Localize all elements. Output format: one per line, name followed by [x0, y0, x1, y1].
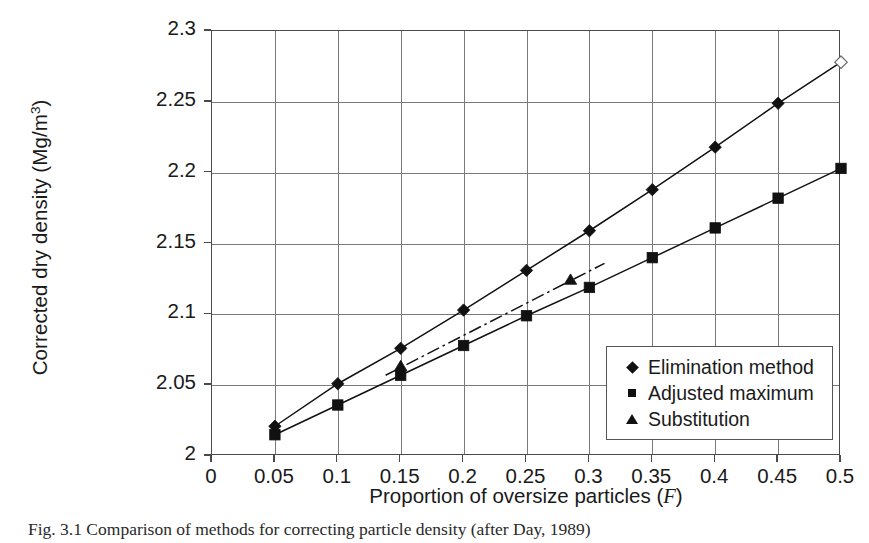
- data-point-diamond: [332, 378, 344, 390]
- x-axis-title-tail: ): [676, 484, 683, 507]
- x-axis-tick-mark: [839, 455, 840, 462]
- x-axis-tick-mark: [651, 455, 652, 462]
- chart-legend: Elimination method Adjusted maximum Subs…: [606, 346, 833, 440]
- triangle-marker-icon: [621, 409, 643, 429]
- data-point-square: [396, 370, 406, 380]
- data-point-diamond: [772, 97, 784, 109]
- y-axis-tick-mark: [204, 242, 211, 243]
- y-axis-tick-mark: [204, 171, 211, 172]
- x-axis-tick-mark: [462, 455, 463, 462]
- data-point-diamond: [457, 304, 469, 316]
- y-axis-tick-label: 2.15: [106, 229, 196, 253]
- legend-item-elimination-method[interactable]: Elimination method: [621, 354, 832, 380]
- data-point-square: [584, 282, 594, 292]
- x-axis-tick-mark: [714, 455, 715, 462]
- y-axis-tick-mark: [204, 383, 211, 384]
- data-point-square: [710, 223, 720, 233]
- y-axis-tick-label: 2.05: [106, 370, 196, 394]
- data-point-square: [836, 163, 846, 173]
- figure-caption: Fig. 3.1 Comparison of methods for corre…: [28, 519, 848, 540]
- x-axis-tick-mark: [399, 455, 400, 462]
- y-axis-tick-mark: [204, 29, 211, 30]
- legend-label: Adjusted maximum: [643, 382, 814, 405]
- y-axis-tick-label: 2: [106, 441, 196, 465]
- x-axis-tick-mark: [776, 455, 777, 462]
- y-axis-title-text: Corrected dry density (Mg/m: [28, 114, 51, 375]
- legend-item-substitution[interactable]: Substitution: [621, 406, 832, 432]
- y-axis-tick-mark: [204, 313, 211, 314]
- data-point-square: [647, 252, 657, 262]
- y-axis-title-tail: ): [28, 99, 51, 106]
- data-point-square: [333, 400, 343, 410]
- legend-label: Elimination method: [643, 356, 814, 379]
- data-point-diamond: [646, 183, 658, 195]
- figure-container: Corrected dry density (Mg/m3) 22.052.12.…: [0, 0, 869, 543]
- x-axis-tick-mark: [336, 455, 337, 462]
- legend-label: Substitution: [643, 408, 750, 431]
- square-marker-icon: [621, 383, 643, 403]
- y-axis-tick-label: 2.1: [106, 299, 196, 323]
- data-point-diamond-open: [835, 56, 847, 68]
- y-axis-title-superscript: 3: [28, 106, 43, 114]
- series-substitution: [386, 263, 605, 375]
- y-axis-tick-label: 2.3: [106, 16, 196, 40]
- data-point-square: [521, 311, 531, 321]
- data-point-diamond: [520, 264, 532, 276]
- y-axis-tick-label: 2.25: [106, 87, 196, 111]
- x-axis-tick-mark: [588, 455, 589, 462]
- data-point-triangle: [395, 360, 407, 370]
- x-axis-tick-mark: [273, 455, 274, 462]
- y-axis-tick-label: 2.2: [106, 158, 196, 182]
- x-axis-title: Proportion of oversize particles (F): [211, 484, 841, 508]
- data-point-square: [773, 193, 783, 203]
- y-axis-title: Corrected dry density (Mg/m3): [28, 27, 53, 447]
- x-axis-tick-mark: [525, 455, 526, 462]
- x-axis-title-text: Proportion of oversize particles (: [369, 484, 663, 507]
- x-axis-tick-mark: [210, 455, 211, 462]
- data-point-diamond: [709, 141, 721, 153]
- data-point-square: [270, 430, 280, 440]
- data-point-diamond: [583, 225, 595, 237]
- data-point-square: [458, 340, 468, 350]
- diamond-marker-icon: [621, 357, 643, 377]
- legend-item-adjusted-maximum[interactable]: Adjusted maximum: [621, 380, 832, 406]
- data-point-diamond: [395, 342, 407, 354]
- x-axis-title-symbol: F: [663, 485, 676, 507]
- y-axis-tick-mark: [204, 100, 211, 101]
